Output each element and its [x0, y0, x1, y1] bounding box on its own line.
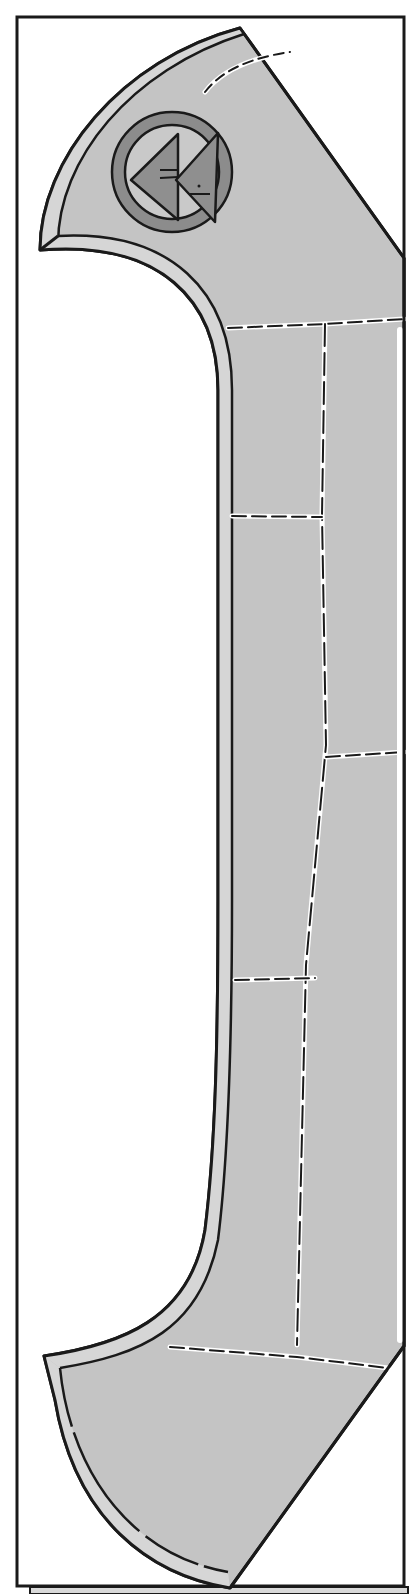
base-strip [30, 1587, 408, 1594]
game-board-piece [0, 0, 420, 1594]
rewind-token[interactable] [112, 112, 232, 232]
